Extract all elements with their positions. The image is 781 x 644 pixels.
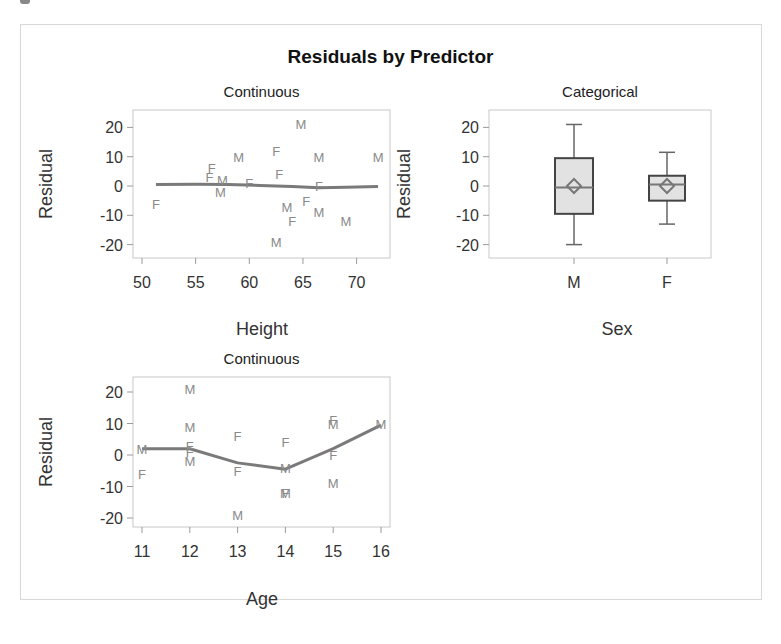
x-axis-label: Age [246, 589, 278, 609]
data-point-m: M [184, 420, 195, 435]
data-point-m: M [184, 454, 195, 469]
y-tick-label: 20 [105, 384, 123, 401]
data-point-m: M [281, 200, 292, 215]
data-point-f: F [234, 429, 242, 444]
y-tick-label: 10 [461, 149, 479, 166]
data-point-m: M [232, 508, 243, 523]
data-point-f: F [281, 486, 289, 501]
data-point-f: F [245, 176, 253, 191]
y-tick-label: 20 [105, 119, 123, 136]
y-tick-label: 10 [105, 416, 123, 433]
data-point-m: M [295, 117, 306, 132]
data-point-f: F [272, 144, 280, 159]
data-point-f: F [234, 464, 242, 479]
data-point-m: M [184, 382, 195, 397]
data-point-m: M [314, 205, 325, 220]
x-tick-label: 11 [134, 543, 151, 560]
x-axis-label: Height [236, 319, 288, 339]
x-tick-label: 12 [181, 543, 199, 560]
iqr-box [555, 158, 593, 214]
data-point-m: M [137, 442, 148, 457]
data-point-m: M [271, 235, 282, 250]
x-axis-label: Sex [601, 319, 632, 339]
data-point-m: M [328, 417, 339, 432]
panel-subtitle: Categorical [562, 83, 638, 100]
panel-height: Continuous20100-10-205055606570ResidualH… [36, 83, 390, 339]
data-point-m: M [280, 461, 291, 476]
y-tick-label: 0 [114, 447, 123, 464]
panel-subtitle: Continuous [224, 83, 300, 100]
y-tick-label: -10 [100, 207, 123, 224]
y-tick-label: -10 [456, 207, 479, 224]
data-point-m: M [314, 150, 325, 165]
y-tick-label: -10 [100, 479, 123, 496]
x-tick-label: 14 [277, 543, 295, 560]
panel-age: Continuous20100-10-20111213141516Residua… [36, 350, 390, 609]
data-point-m: M [233, 150, 244, 165]
x-tick-label: M [567, 274, 580, 291]
data-point-m: M [340, 214, 351, 229]
y-tick-label: 0 [114, 178, 123, 195]
data-point-f: F [281, 435, 289, 450]
data-point-f: F [275, 167, 283, 182]
x-tick-label: F [662, 274, 672, 291]
data-point-m: M [376, 417, 387, 432]
data-point-f: F [315, 179, 323, 194]
y-tick-label: 20 [461, 119, 479, 136]
x-tick-label: 15 [324, 543, 342, 560]
panel-subtitle: Continuous [224, 350, 300, 367]
data-point-f: F [329, 448, 337, 463]
data-point-m: M [328, 476, 339, 491]
y-tick-label: -20 [456, 237, 479, 254]
data-point-m: M [373, 150, 384, 165]
data-point-f: F [152, 197, 160, 212]
x-tick-label: 13 [229, 543, 247, 560]
x-tick-label: 65 [294, 274, 312, 291]
y-tick-label: 10 [105, 149, 123, 166]
data-point-m: M [215, 185, 226, 200]
y-axis-label: Residual [394, 149, 414, 219]
x-tick-label: 70 [348, 274, 366, 291]
plot-area [133, 377, 390, 527]
data-point-f: F [302, 194, 310, 209]
data-point-f: F [288, 214, 296, 229]
y-axis-label: Residual [36, 417, 56, 487]
x-tick-label: 60 [240, 274, 258, 291]
panel-sex: Categorical20100-10-20MFResidualSex [394, 83, 711, 339]
data-point-f: F [138, 467, 146, 482]
y-axis-label: Residual [36, 149, 56, 219]
x-tick-label: 16 [372, 543, 390, 560]
x-tick-label: 50 [133, 274, 151, 291]
y-tick-label: -20 [100, 237, 123, 254]
y-tick-label: -20 [100, 510, 123, 527]
chart-canvas: Continuous20100-10-205055606570ResidualH… [0, 0, 781, 644]
y-tick-label: 0 [470, 178, 479, 195]
data-point-f: F [208, 161, 216, 176]
x-tick-label: 55 [187, 274, 205, 291]
